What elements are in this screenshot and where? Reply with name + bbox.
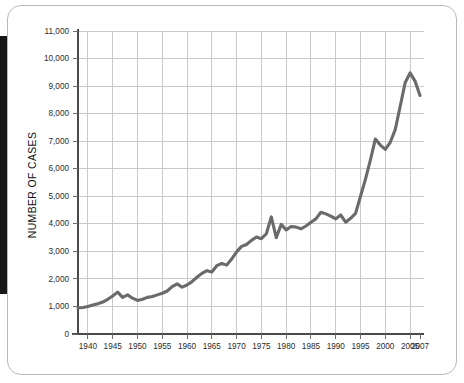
y-axis-title: NUMBER OF CASES bbox=[27, 132, 38, 238]
x-tick-label: 1980 bbox=[277, 342, 296, 351]
grid-lines bbox=[78, 31, 424, 334]
x-tick-label: 1955 bbox=[153, 342, 172, 351]
y-tick-label: 0 bbox=[64, 330, 69, 339]
y-tick-label: 6,000 bbox=[49, 164, 70, 173]
y-tick-label: 3,000 bbox=[49, 247, 70, 256]
y-tick-label: 8,000 bbox=[49, 109, 70, 118]
x-axis-tick-labels: 1940194519501955196019651970197519801985… bbox=[79, 342, 430, 351]
tick-marks bbox=[73, 31, 420, 339]
x-tick-label: 2007 bbox=[411, 342, 430, 351]
x-tick-label: 1950 bbox=[128, 342, 147, 351]
data-series-line bbox=[78, 73, 420, 308]
x-tick-label: 1995 bbox=[351, 342, 370, 351]
data-series-group bbox=[78, 73, 420, 308]
y-tick-label: 11,000 bbox=[45, 27, 70, 36]
x-tick-label: 1940 bbox=[79, 342, 98, 351]
x-tick-label: 1960 bbox=[178, 342, 197, 351]
x-tick-label: 1985 bbox=[302, 342, 321, 351]
y-tick-label: 10,000 bbox=[44, 54, 69, 63]
y-axis-tick-labels: 01,0002,0003,0004,0005,0006,0007,0008,00… bbox=[44, 27, 69, 339]
axis-lines bbox=[72, 29, 424, 334]
y-tick-label: 5,000 bbox=[49, 192, 70, 201]
y-tick-label: 9,000 bbox=[49, 82, 70, 91]
line-chart: 01,0002,0003,0004,0005,0006,0007,0008,00… bbox=[0, 0, 464, 383]
y-tick-label: 4,000 bbox=[49, 219, 70, 228]
x-tick-label: 1965 bbox=[203, 342, 222, 351]
x-tick-label: 1975 bbox=[252, 342, 271, 351]
x-tick-label: 1945 bbox=[104, 342, 123, 351]
x-tick-label: 1990 bbox=[327, 342, 346, 351]
chart-svg: 01,0002,0003,0004,0005,0006,0007,0008,00… bbox=[0, 0, 464, 383]
y-tick-label: 1,000 bbox=[49, 302, 70, 311]
x-tick-label: 1970 bbox=[227, 342, 246, 351]
y-tick-label: 2,000 bbox=[49, 275, 70, 284]
y-tick-label: 7,000 bbox=[49, 137, 70, 146]
x-tick-label: 2000 bbox=[376, 342, 395, 351]
